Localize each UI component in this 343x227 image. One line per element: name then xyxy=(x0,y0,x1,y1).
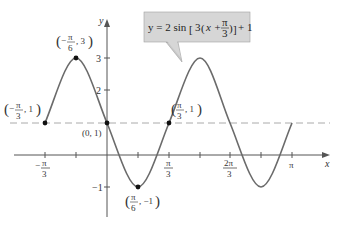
svg-text:3: 3 xyxy=(42,169,47,179)
x-tick-label-neg-pi-3: − π 3 xyxy=(35,158,50,179)
svg-text:[: [ xyxy=(189,23,193,35)
svg-text:π: π xyxy=(68,32,73,42)
svg-text:6: 6 xyxy=(68,43,73,53)
svg-text:x +: x + xyxy=(205,21,221,33)
svg-text:, 1: , 1 xyxy=(24,104,33,114)
svg-text:π: π xyxy=(166,158,171,168)
y-axis-arrow-icon xyxy=(104,19,110,27)
svg-text:): ) xyxy=(88,33,93,50)
sine-graph: y x 3 2 −1 − π 3 π 3 2π 3 π y = 2 sin [ … xyxy=(0,0,343,227)
svg-text:−: − xyxy=(35,160,40,170)
svg-text:−: − xyxy=(9,103,14,113)
point-neg-pi-3: ( − π 3 , 1 ) xyxy=(4,100,47,125)
y-tick-label-neg1: −1 xyxy=(92,182,103,193)
svg-text:+ 1: + 1 xyxy=(238,21,252,33)
svg-text:): ) xyxy=(197,101,202,118)
y-axis-label: y xyxy=(98,15,104,26)
point-neg-pi-6-max: ( − π 6 , 3 ) xyxy=(56,32,93,60)
svg-text:2π: 2π xyxy=(224,158,234,168)
callout-prefix: y = 2 sin xyxy=(148,21,187,33)
svg-text:π: π xyxy=(16,100,21,110)
y-tick-label-3: 3 xyxy=(96,53,101,64)
svg-text:π: π xyxy=(42,158,47,168)
svg-text:(: ( xyxy=(201,22,205,35)
svg-text:, 3: , 3 xyxy=(76,36,86,46)
svg-text:π: π xyxy=(131,192,136,202)
point-pi-6-min: ( π 6 , −1 ) xyxy=(125,185,160,213)
svg-text:(: ( xyxy=(125,193,130,210)
svg-text:3: 3 xyxy=(16,111,21,121)
svg-text:6: 6 xyxy=(131,203,136,213)
svg-text:3: 3 xyxy=(227,169,232,179)
svg-text:, −1: , −1 xyxy=(139,196,153,206)
svg-text:(: ( xyxy=(171,101,176,118)
svg-text:): ) xyxy=(36,101,41,118)
svg-text:(0, 1): (0, 1) xyxy=(82,128,102,138)
svg-text:3: 3 xyxy=(222,27,228,39)
svg-text:π: π xyxy=(177,100,182,110)
x-tick-label-pi: π xyxy=(289,160,294,170)
equation-callout: y = 2 sin [ 3 ( x + π 3 ) ] + 1 xyxy=(144,12,252,62)
svg-text:3: 3 xyxy=(166,169,171,179)
svg-text:): ) xyxy=(155,193,160,210)
point-origin-midline: (0, 1) xyxy=(82,121,109,138)
x-tick-label-pi-3: π 3 xyxy=(164,158,173,179)
svg-text:3: 3 xyxy=(177,111,182,121)
x-axis-label: x xyxy=(324,158,330,169)
point-pi-3-midline: ( π 3 , 1 ) xyxy=(167,100,202,125)
svg-text:, 1: , 1 xyxy=(185,104,194,114)
x-tick-label-2pi-3: 2π 3 xyxy=(223,158,237,179)
svg-text:−: − xyxy=(61,35,66,45)
svg-text:]: ] xyxy=(233,23,237,35)
